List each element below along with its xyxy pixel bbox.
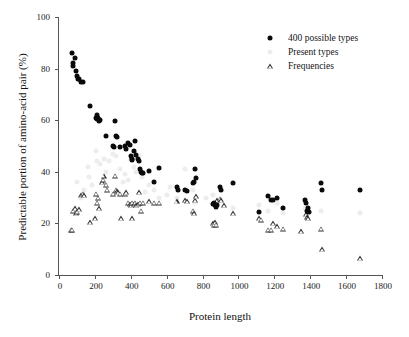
y-axis-tick-label: 100: [37, 12, 51, 23]
data-point: [193, 194, 199, 199]
data-point: [132, 138, 137, 143]
data-point: [138, 208, 144, 213]
y-axis-tick: 20: [55, 223, 59, 224]
legend-item[interactable]: 400 possible types: [262, 31, 380, 45]
x-axis-tick-label: 0: [58, 281, 63, 292]
data-point: [97, 118, 102, 123]
x-axis-tick-label: 800: [197, 281, 211, 292]
data-point: [85, 164, 90, 169]
data-point: [319, 181, 324, 186]
x-axis-tick: 1200: [274, 275, 275, 279]
data-point: [318, 226, 324, 231]
x-axis-tick-label: 1400: [302, 281, 320, 292]
data-point: [190, 187, 195, 192]
data-point: [123, 190, 129, 195]
data-point: [90, 182, 95, 187]
data-point: [306, 209, 311, 214]
data-point: [129, 216, 135, 221]
legend-item[interactable]: Frequencies: [262, 59, 380, 73]
data-point: [164, 193, 169, 198]
x-axis-tick: 1600: [346, 275, 347, 279]
data-point: [87, 174, 92, 179]
legend-marker-icon: [268, 36, 273, 41]
y-axis-tick-label: 0: [46, 270, 51, 281]
data-point: [72, 56, 77, 61]
data-point: [93, 149, 98, 154]
x-axis-tick-label: 1000: [230, 281, 248, 292]
data-point: [156, 200, 162, 205]
data-point: [358, 187, 363, 192]
data-point: [319, 208, 324, 213]
data-point: [80, 79, 85, 84]
data-point: [146, 182, 151, 187]
data-point: [230, 181, 235, 186]
data-point: [71, 61, 76, 66]
data-point: [280, 211, 285, 216]
data-point: [104, 133, 109, 138]
x-axis-tick: 200: [95, 275, 96, 279]
y-axis-tick: 60: [55, 120, 59, 121]
data-point: [112, 173, 118, 178]
x-axis-tick-label: 600: [161, 281, 175, 292]
data-point: [174, 199, 180, 204]
data-point: [112, 119, 117, 124]
data-point: [275, 195, 280, 200]
data-point: [193, 167, 198, 172]
data-point: [127, 142, 132, 147]
data-point: [358, 211, 363, 216]
data-point: [258, 217, 264, 222]
data-point: [120, 180, 125, 185]
data-point: [184, 199, 190, 204]
y-axis-tick: 40: [55, 172, 59, 173]
data-point: [214, 203, 219, 208]
data-point: [305, 216, 311, 221]
y-axis-tick-label: 20: [41, 218, 50, 229]
data-point: [74, 180, 79, 185]
y-axis-tick: 80: [55, 69, 59, 70]
data-point: [118, 145, 123, 150]
data-point: [101, 173, 107, 178]
data-point: [126, 177, 131, 182]
data-point: [182, 167, 187, 172]
x-axis-tick-label: 1200: [266, 281, 284, 292]
data-point: [88, 104, 93, 109]
data-point: [76, 207, 82, 212]
y-axis-tick-label: 60: [41, 115, 50, 126]
data-point: [152, 180, 157, 185]
data-point: [146, 168, 151, 173]
x-axis-tick-label: 1600: [338, 281, 356, 292]
x-axis-tick: 0: [59, 275, 60, 279]
data-point: [143, 190, 148, 195]
data-point: [137, 159, 142, 164]
data-point: [118, 216, 124, 221]
chart-legend: 400 possible typesPresent typesFrequenci…: [262, 31, 380, 73]
data-point: [357, 256, 363, 261]
x-axis-tick: 600: [167, 275, 168, 279]
y-axis-tick-label: 40: [41, 167, 50, 178]
data-point: [204, 195, 209, 200]
data-point: [298, 229, 304, 234]
data-point: [101, 156, 106, 161]
data-point: [130, 158, 135, 163]
data-point: [157, 165, 162, 170]
data-point: [194, 176, 199, 181]
data-point: [118, 167, 123, 172]
data-point: [175, 187, 180, 192]
data-point: [114, 134, 119, 139]
data-point: [319, 247, 325, 252]
data-point: [221, 203, 227, 208]
data-point: [114, 154, 119, 159]
data-point: [219, 187, 224, 192]
data-point: [280, 205, 285, 210]
x-axis-tick: 400: [131, 275, 132, 279]
legend-item[interactable]: Present types: [262, 45, 380, 59]
x-axis-tick: 800: [203, 275, 204, 279]
data-point: [95, 195, 101, 200]
y-axis-tick: 100: [55, 17, 59, 18]
data-point: [191, 211, 197, 216]
data-point: [111, 145, 116, 150]
data-point: [257, 209, 262, 214]
data-point: [136, 190, 142, 195]
data-point: [168, 185, 173, 190]
data-point: [96, 205, 102, 210]
